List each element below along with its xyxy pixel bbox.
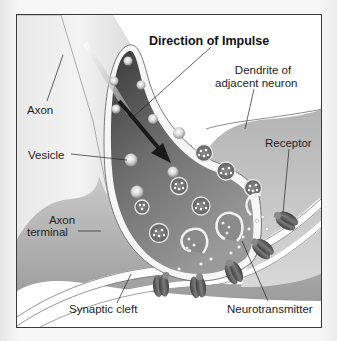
label-axon: Axon — [27, 104, 53, 117]
label-neurotransmitter: Neurotransmitter — [227, 303, 313, 316]
label-vesicle: Vesicle — [28, 149, 64, 162]
label-axon-terminal-line2: terminal — [27, 226, 68, 239]
label-receptor: Receptor — [265, 137, 312, 150]
title-direction-of-impulse: Direction of Impulse — [149, 35, 269, 48]
label-dendrite-line2: adjacent neuron — [215, 77, 297, 90]
label-dendrite-line1: Dendrite of — [213, 64, 313, 77]
synapse-illustration — [17, 15, 322, 328]
label-synaptic-cleft: Synaptic cleft — [69, 303, 137, 316]
diagram-frame: Direction of Impulse Axon Vesicle Axon t… — [16, 14, 322, 328]
